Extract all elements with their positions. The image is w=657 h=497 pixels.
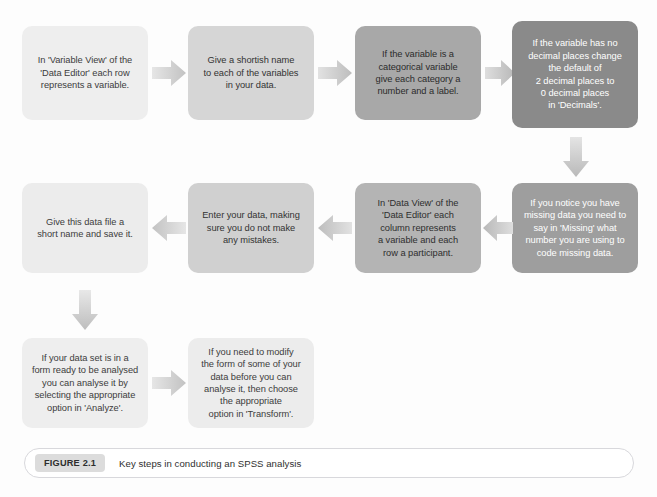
- flow-node-1-text: In 'Variable View' of the 'Data Editor' …: [29, 54, 141, 91]
- arrow-right-4: [152, 370, 186, 396]
- flow-node-8[interactable]: Give this data file a short name and sav…: [22, 183, 148, 273]
- flow-node-9[interactable]: If your data set is in a form ready to b…: [22, 338, 148, 428]
- flow-node-2-text: Give a shortish name to each of the vari…: [195, 54, 307, 91]
- arrow-right-3: [485, 60, 515, 86]
- flow-node-7[interactable]: Enter your data, making sure you do not …: [188, 183, 314, 273]
- running-head: [408, 0, 638, 6]
- flow-node-6-text: In 'Data View' of the 'Data Editor' each…: [362, 197, 474, 259]
- figure-caption-text: Key steps in conducting an SPSS analysis: [119, 458, 301, 469]
- arrow-right-1: [152, 60, 186, 86]
- arrow-down-right: [563, 137, 589, 177]
- arrow-left-3: [152, 215, 186, 241]
- flow-node-8-text: Give this data file a short name and sav…: [29, 216, 141, 241]
- flow-node-2[interactable]: Give a shortish name to each of the vari…: [188, 26, 314, 120]
- figure-number-badge: FIGURE 2.1: [35, 454, 105, 472]
- arrow-left-2: [318, 215, 352, 241]
- arrow-left-1: [483, 215, 513, 241]
- flow-node-5-text: If you notice you have missing data you …: [519, 197, 631, 259]
- arrow-down-left: [72, 290, 98, 330]
- arrow-right-2: [318, 60, 352, 86]
- flow-node-9-text: If your data set is in a form ready to b…: [29, 352, 141, 414]
- flow-node-10-text: If you need to modify the form of some o…: [195, 346, 307, 420]
- flow-node-3-text: If the variable is a categorical variabl…: [362, 48, 474, 98]
- flow-node-4[interactable]: If the variable has no decimal places ch…: [512, 21, 638, 128]
- flow-node-1[interactable]: In 'Variable View' of the 'Data Editor' …: [22, 26, 148, 120]
- flow-node-4-text: If the variable has no decimal places ch…: [519, 37, 631, 111]
- flow-node-3[interactable]: If the variable is a categorical variabl…: [355, 26, 481, 120]
- flow-node-7-text: Enter your data, making sure you do not …: [195, 209, 307, 246]
- flow-node-5[interactable]: If you notice you have missing data you …: [512, 183, 638, 273]
- flow-node-10[interactable]: If you need to modify the form of some o…: [188, 338, 314, 428]
- figure-page: In 'Variable View' of the 'Data Editor' …: [0, 0, 657, 497]
- flow-node-6[interactable]: In 'Data View' of the 'Data Editor' each…: [355, 183, 481, 273]
- figure-caption-bar: FIGURE 2.1 Key steps in conducting an SP…: [24, 448, 634, 478]
